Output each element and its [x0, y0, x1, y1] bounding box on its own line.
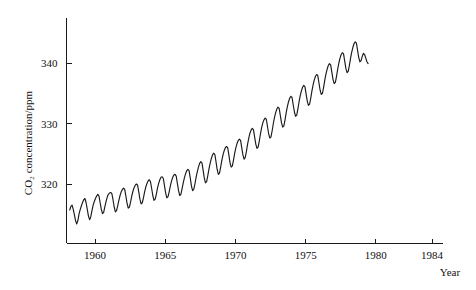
y-axis-title: CO₂ concentration/ppm — [22, 90, 34, 195]
x-tick-label: 1984 — [421, 249, 444, 261]
y-axis-tick-labels: 320330340 — [41, 57, 58, 190]
y-tick-label: 320 — [41, 178, 58, 190]
x-tick-label: 1970 — [224, 249, 247, 261]
chart-page: 320330340 196019651970197519801984 CO₂ c… — [0, 0, 476, 290]
x-tick-label: 1965 — [154, 249, 177, 261]
x-axis-tick-labels: 196019651970197519801984 — [84, 249, 444, 261]
x-tick-label: 1980 — [365, 249, 388, 261]
x-tick-label: 1960 — [84, 249, 107, 261]
y-tick-label: 340 — [41, 57, 58, 69]
co2-keeling-curve-chart: 320330340 196019651970197519801984 CO₂ c… — [0, 0, 476, 290]
y-tick-label: 330 — [41, 118, 58, 130]
co2-concentration-line — [70, 42, 368, 224]
x-axis-title: Year — [440, 266, 461, 278]
x-tick-label: 1975 — [295, 249, 318, 261]
